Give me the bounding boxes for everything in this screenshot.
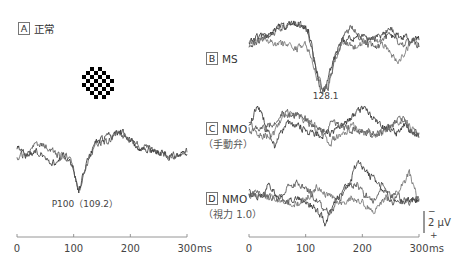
checkerboard-square (98, 67, 102, 71)
panel-subtitle-d: （視力 1.0） (203, 206, 262, 221)
vep-figure: 0100200300ms0100200300ms P100（109.2）128.… (0, 0, 462, 260)
panel-letter-a: A (18, 22, 30, 35)
panel-label-d: D NMO (206, 192, 247, 205)
panel-letter-d: D (206, 192, 218, 205)
checkerboard-square (90, 83, 94, 87)
checkerboard-square (86, 87, 90, 91)
checkerboard-square (98, 91, 102, 95)
panel-title-c: NMO (222, 123, 247, 135)
panel-label-a: A 正常 (18, 21, 54, 36)
trace-b-2 (249, 21, 419, 92)
scale-bar-negative-sign: − (428, 206, 436, 216)
panel-label-c: C NMO (206, 122, 247, 135)
checkerboard-square (94, 95, 98, 99)
checkerboard-square (106, 75, 110, 79)
checkerboard-square (110, 79, 114, 83)
x-tick-label: 100 (64, 243, 83, 254)
panel-title-a: 正常 (34, 21, 54, 36)
checkerboard-square (110, 87, 114, 91)
trace-c-1 (249, 106, 419, 148)
checkerboard-square (82, 75, 86, 79)
scale-bar-label: 2 μV (428, 217, 451, 228)
checkerboard-square (90, 75, 94, 79)
checkerboard-square (102, 87, 106, 91)
checkerboard-square (98, 83, 102, 87)
checkerboard-square (102, 79, 106, 83)
x-tick-label: 0 (14, 243, 20, 254)
latency-annotation: P100（109.2） (52, 199, 118, 209)
trace-b-3 (249, 36, 419, 91)
checkerboard-square (106, 83, 110, 87)
checkerboard-square (90, 67, 94, 71)
x-tick-label: 0 (246, 243, 252, 254)
x-tick-label: 300 (177, 243, 196, 254)
checkerboard-square (102, 95, 106, 99)
x-tick-label: 200 (121, 243, 140, 254)
panel-letter-c: C (206, 122, 218, 135)
checkerboard-square (86, 71, 90, 75)
x-tick-label: 200 (353, 243, 372, 254)
latency-annotation: 128.1 (313, 91, 339, 101)
panel-subtitle-c: （手動弁） (203, 136, 253, 151)
checkerboard-square (106, 91, 110, 95)
checkerboard-square (98, 75, 102, 79)
time-axes: 0100200300ms0100200300ms (14, 234, 444, 254)
checkerboard-square (90, 91, 94, 95)
trace-a-2 (17, 131, 187, 191)
panel-letter-b: B (206, 52, 218, 65)
trace-a-1 (17, 129, 187, 193)
scale-bar-positive-sign: + (430, 230, 438, 240)
x-axis-unit-label: ms (197, 243, 212, 254)
checkerboard-square (102, 71, 106, 75)
panel-title-b: MS (222, 53, 238, 65)
checkerboard-square (82, 83, 86, 87)
checkerboard-square (94, 87, 98, 91)
panel-title-d: NMO (222, 193, 247, 205)
latency-annotations: P100（109.2）128.1 (52, 91, 339, 209)
x-axis-unit-label: ms (429, 243, 444, 254)
x-tick-label: 300 (409, 243, 428, 254)
checkerboard-icon (82, 67, 114, 99)
checkerboard-square (94, 71, 98, 75)
x-tick-label: 100 (296, 243, 315, 254)
amplitude-scale-bar: − 2 μV + (424, 206, 451, 240)
panel-label-b: B MS (206, 52, 238, 65)
checkerboard-square (94, 79, 98, 83)
checkerboard-square (86, 79, 90, 83)
